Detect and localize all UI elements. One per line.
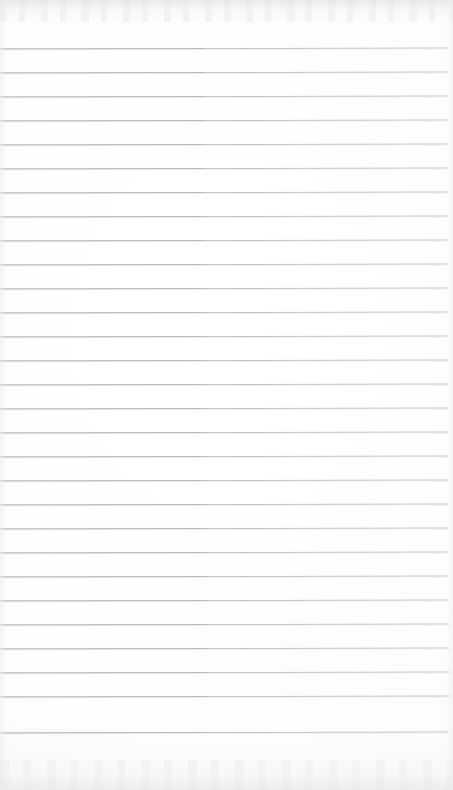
writing-area[interactable] — [0, 48, 453, 738]
notebook-page — [0, 0, 453, 790]
